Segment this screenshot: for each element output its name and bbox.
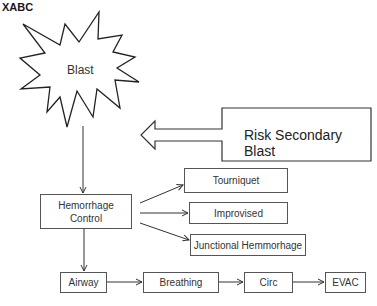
improvised-box: Improvised (189, 202, 288, 224)
breathing-label: Breathing (160, 276, 203, 289)
evac-label: EVAC (332, 276, 359, 289)
junctional-hemorrhage-label: Junctional Hemmorhage (194, 239, 302, 252)
hemorrhage-label-line2: Control (70, 212, 102, 225)
improvised-label: Improvised (214, 207, 263, 220)
circ-box: Circ (244, 272, 293, 293)
junctional-hemorrhage-box: Junctional Hemmorhage (190, 234, 306, 256)
risk-secondary-blast-label: Risk Secondary Blast (244, 127, 377, 159)
breathing-box: Breathing (143, 272, 219, 293)
hemorrhage-label-line1: Hemorrhage (58, 199, 114, 212)
airway-box: Airway (60, 272, 107, 293)
airway-label: Airway (68, 276, 98, 289)
hemorrhage-control-box: Hemorrhage Control (40, 194, 132, 229)
arrow-to-junctional (140, 223, 189, 240)
circ-label: Circ (260, 276, 278, 289)
arrow-to-tourniquet (140, 185, 183, 203)
tourniquet-label: Tourniquet (213, 174, 260, 187)
tourniquet-box: Tourniquet (184, 168, 288, 193)
blast-label: Blast (67, 63, 94, 77)
evac-box: EVAC (325, 272, 366, 293)
